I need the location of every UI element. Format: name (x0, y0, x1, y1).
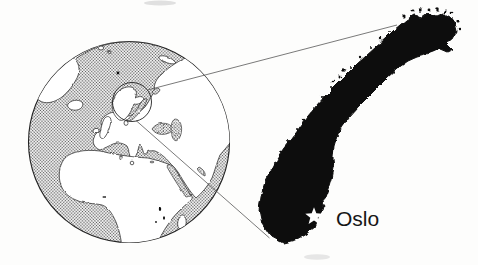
oslo-label: Oslo (336, 207, 379, 230)
island-svalbard-2 (107, 51, 111, 54)
island-sardinia (120, 155, 122, 159)
oslo-locator-figure: Oslo (0, 0, 478, 265)
map-symbol-dot (117, 72, 120, 75)
island-iceland (68, 100, 83, 110)
island-madagascar (178, 216, 187, 229)
scan-smudge-bottom (304, 254, 330, 260)
sea-caspian (171, 119, 182, 141)
island-sicily (130, 161, 134, 165)
locator-map-svg: Oslo (0, 0, 478, 265)
scan-smudge-top (144, 1, 176, 6)
globe (29, 32, 233, 252)
island-crete (150, 161, 154, 163)
island-svalbard (98, 46, 103, 50)
